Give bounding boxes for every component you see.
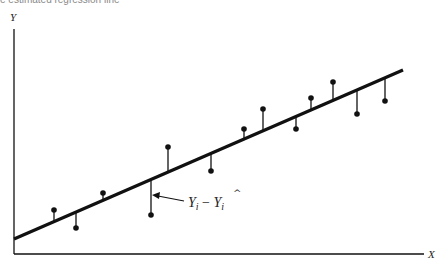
data-point	[308, 95, 314, 101]
data-point	[330, 79, 336, 85]
data-point	[208, 168, 214, 174]
y-axis-label: Y	[10, 11, 18, 23]
data-point	[241, 126, 247, 132]
data-point	[73, 225, 79, 231]
data-point	[382, 98, 388, 104]
data-point	[100, 190, 106, 196]
residual-label: Yi − Yi	[188, 195, 224, 212]
regression-diagram: Y X Yi − Yi ^	[0, 0, 437, 267]
data-point	[148, 212, 154, 218]
arrowhead-icon	[152, 192, 160, 199]
data-point	[51, 207, 57, 213]
hat-accent-icon: ^	[233, 187, 241, 198]
data-point	[260, 106, 266, 112]
data-point	[165, 144, 171, 150]
annotation-arrow	[158, 196, 184, 201]
regression-line	[14, 70, 403, 239]
data-point	[293, 126, 299, 132]
x-axis-label: X	[427, 248, 436, 260]
data-point	[354, 111, 360, 117]
